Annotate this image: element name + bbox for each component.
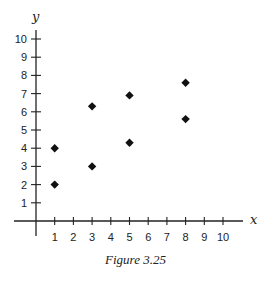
y-tick-label: 7 xyxy=(21,88,27,100)
data-point-diamond-icon xyxy=(181,78,189,86)
y-tick-label: 3 xyxy=(21,160,27,172)
x-tick-label: 6 xyxy=(145,231,151,243)
y-tick-label: 5 xyxy=(21,124,27,136)
y-tick-label: 2 xyxy=(21,179,27,191)
y-tick-label: 8 xyxy=(21,69,27,81)
data-point-diamond-icon xyxy=(125,91,133,99)
y-ticks: 12345678910 xyxy=(15,33,41,209)
data-point-diamond-icon xyxy=(125,139,133,147)
y-tick-label: 6 xyxy=(21,106,27,118)
x-axis-label: x xyxy=(250,212,258,227)
x-tick-label: 1 xyxy=(52,231,58,243)
data-point-diamond-icon xyxy=(51,144,59,152)
x-tick-label: 2 xyxy=(70,231,76,243)
x-tick-label: 3 xyxy=(89,231,95,243)
x-tick-label: 4 xyxy=(108,231,114,243)
x-tick-label: 5 xyxy=(126,231,132,243)
scatter-plot: 12345678910 12345678910 x y Figure 3.25 xyxy=(0,0,261,281)
figure-caption: Figure 3.25 xyxy=(104,252,166,267)
axes xyxy=(14,30,243,236)
x-tick-label: 8 xyxy=(183,231,189,243)
y-axis-label: y xyxy=(31,9,40,24)
y-tick-label: 4 xyxy=(21,142,27,154)
y-tick-label: 1 xyxy=(21,197,27,209)
data-point-diamond-icon xyxy=(51,180,59,188)
data-point-diamond-icon xyxy=(88,102,96,110)
x-tick-label: 10 xyxy=(217,231,229,243)
data-point-diamond-icon xyxy=(88,162,96,170)
y-tick-label: 10 xyxy=(15,33,27,45)
x-tick-label: 7 xyxy=(164,231,170,243)
x-tick-label: 9 xyxy=(201,231,207,243)
data-point-diamond-icon xyxy=(181,115,189,123)
data-points xyxy=(51,78,190,188)
y-tick-label: 9 xyxy=(21,51,27,63)
